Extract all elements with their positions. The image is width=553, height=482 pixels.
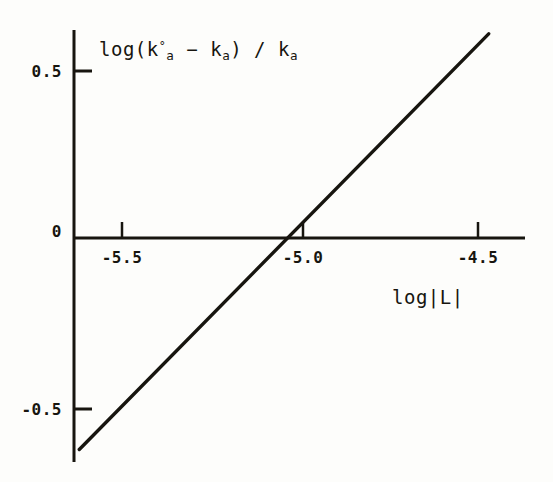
y-tick-label-1: 0 [8,222,62,241]
data-series-group [79,34,488,450]
y-axis-title: log(k°a − ka) / ka [99,38,298,60]
axes-group [74,30,525,462]
y-axis-title-sub3: a [290,48,298,63]
chart-figure: log(k°a − ka) / ka log|L| 0.5 0 -0.5 -5.… [0,0,553,482]
x-axis-title: log|L| [392,286,464,308]
y-axis-title-sub2: a [222,48,230,63]
plot-canvas [0,0,553,482]
y-tick-marks [74,71,92,409]
y-tick-label-2: -0.5 [8,400,62,419]
y-axis-title-prefix: log(k [99,38,159,60]
x-tick-label-1: -5.0 [283,248,324,267]
y-axis-title-k2: k [210,38,222,60]
y-axis-title-minus: − [174,38,210,60]
y-tick-label-0: 0.5 [8,62,62,81]
x-tick-label-0: -5.5 [102,248,143,267]
series-line-linear-fit [79,34,488,450]
x-tick-label-2: -4.5 [458,248,499,267]
y-axis-title-close: ) / k [230,38,290,60]
